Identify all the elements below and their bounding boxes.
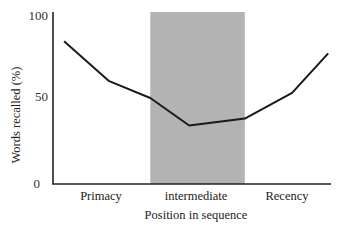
y-tick-100: 100 [29,8,49,23]
y-tick-0: 0 [34,176,41,191]
category-primacy: Primacy [80,189,122,203]
y-axis-label: Words recalled (%) [9,67,23,164]
intermediate-region [150,12,245,184]
category-intermediate: intermediate [165,189,228,203]
y-tick-50: 50 [35,89,48,104]
serial-position-chart: 100 50 0 Words recalled (%) Primacy inte… [0,0,344,234]
x-axis-label: Position in sequence [145,208,248,222]
category-recency: Recency [265,189,309,203]
